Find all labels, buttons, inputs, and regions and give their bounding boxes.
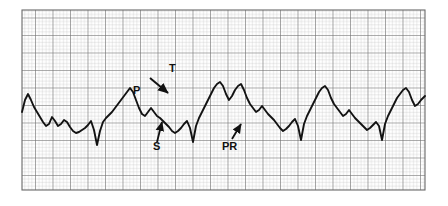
s-wave-label: S <box>153 140 160 152</box>
pr-interval-label: PR <box>222 140 237 152</box>
ecg-canvas: P T S PR <box>0 0 448 206</box>
ecg-rhythm-strip-figure: P T S PR <box>0 0 448 206</box>
ecg-grid-paper <box>22 10 425 190</box>
t-wave-label: T <box>169 62 176 74</box>
p-wave-label: P <box>133 84 140 96</box>
